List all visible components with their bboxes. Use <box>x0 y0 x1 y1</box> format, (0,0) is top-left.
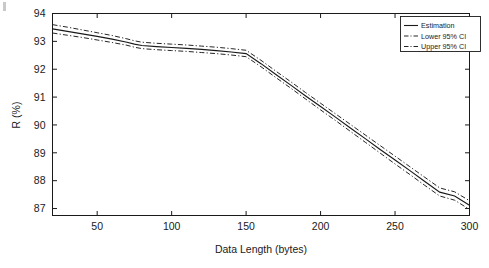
x-tick-label: 200 <box>312 220 330 232</box>
legend: EstimationLower 95% CIUpper 95% CI <box>401 17 481 52</box>
legend-label: Upper 95% CI <box>421 42 466 51</box>
x-tick-label: 250 <box>386 220 404 232</box>
line-chart: 50100150200250300 8788899091929394 Data … <box>0 0 489 268</box>
x-tick-label: 150 <box>237 220 255 232</box>
y-tick-label: 87 <box>34 202 46 214</box>
series-estimation <box>53 29 470 205</box>
y-tick-label: 94 <box>34 7 46 19</box>
x-tick-label: 300 <box>461 220 479 232</box>
x-axis-title: Data Length (bytes) <box>215 243 307 255</box>
chart-figure: 50100150200250300 8788899091929394 Data … <box>0 0 489 268</box>
data-series-layer <box>53 25 470 210</box>
legend-label: Estimation <box>421 21 455 30</box>
y-axis-tick-labels: 8788899091929394 <box>34 7 46 214</box>
y-tick-label: 93 <box>34 35 46 47</box>
y-tick-label: 91 <box>34 91 46 103</box>
y-axis-title: R (%) <box>10 102 22 129</box>
x-axis-tick-labels: 50100150200250300 <box>91 220 478 232</box>
x-tick-label: 100 <box>163 220 181 232</box>
x-tick-label: 50 <box>91 220 103 232</box>
series-lower-95-ci <box>53 33 470 209</box>
y-tick-label: 89 <box>34 147 46 159</box>
y-tick-label: 90 <box>34 119 46 131</box>
y-tick-label: 88 <box>34 174 46 186</box>
scan-artifact <box>3 2 6 11</box>
legend-label: Lower 95% CI <box>421 32 466 41</box>
y-tick-label: 92 <box>34 63 46 75</box>
